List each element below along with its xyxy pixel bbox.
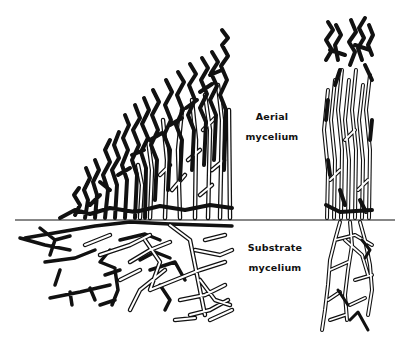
mycelium-diagram: Aerial mycelium Substrate mycelium	[0, 0, 407, 351]
right-substrate-mycelium	[322, 222, 372, 330]
aerial-label-line1: Aerial	[232, 111, 312, 122]
substrate-label-line2: mycelium	[235, 262, 315, 273]
aerial-label-line2: mycelium	[232, 131, 312, 142]
left-aerial-mycelium	[60, 30, 232, 218]
mycelium-illustration	[0, 0, 407, 351]
substrate-label-line1: Substrate	[235, 242, 315, 253]
left-substrate-mycelium	[20, 222, 232, 320]
right-aerial-mycelium	[324, 18, 373, 218]
